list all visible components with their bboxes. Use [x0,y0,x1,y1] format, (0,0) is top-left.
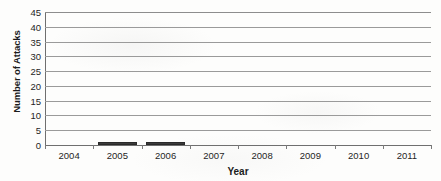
y-axis-tick-label: 5 [7,125,41,136]
x-axis-tick-mark [431,145,432,149]
x-axis-tick-label: 2010 [335,150,383,161]
y-axis-tick-label: 15 [7,95,41,106]
x-axis-tick-label: 2006 [142,150,190,161]
x-axis-tick-mark [45,145,46,149]
gridline [45,12,431,13]
y-axis-tick-label: 0 [7,140,41,151]
x-axis-tick-mark [383,145,384,149]
x-axis-tick-label: 2004 [45,150,93,161]
y-axis-tick-label: 40 [7,21,41,32]
gridline [45,86,431,87]
x-axis-tick-mark [238,145,239,149]
gridline [45,71,431,72]
y-axis-tick-label: 35 [7,36,41,47]
x-axis-tick-mark [93,145,94,149]
y-axis-tick-label: 45 [7,7,41,18]
x-axis-title: Year [45,166,431,177]
y-axis-tick-label: 10 [7,110,41,121]
x-axis-tick-label: 2008 [238,150,286,161]
x-axis-tick-label: 2011 [383,150,431,161]
x-axis-tick-label: 2009 [286,150,334,161]
gridline [45,27,431,28]
gridline [45,115,431,116]
bar-chart: Number of Attacks 051015202530354045 200… [0,0,441,181]
x-axis-tick-mark [335,145,336,149]
gridline [45,101,431,102]
y-axis-tick-label: 20 [7,80,41,91]
x-axis-tick-mark [286,145,287,149]
plot-area [45,12,431,145]
gridline [45,42,431,43]
y-axis-tick-label: 25 [7,66,41,77]
gridline [45,130,431,131]
x-axis-tick-mark [190,145,191,149]
y-axis-tick-labels: 051015202530354045 [4,0,41,181]
x-axis-tick-mark [142,145,143,149]
gridline [45,56,431,57]
x-axis-tick-label: 2005 [93,150,141,161]
x-axis-tick-label: 2007 [190,150,238,161]
y-axis-tick-label: 30 [7,51,41,62]
